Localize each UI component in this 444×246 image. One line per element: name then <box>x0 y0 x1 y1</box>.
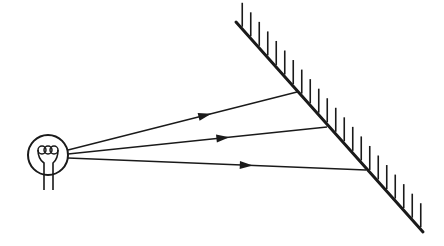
light-rays <box>68 92 366 170</box>
mirror-surface <box>236 22 423 232</box>
arrow-icon <box>216 133 230 142</box>
arrow-icon <box>198 110 213 121</box>
arrow-icon <box>240 161 253 170</box>
diagram-canvas <box>0 0 444 246</box>
light-ray <box>68 92 297 150</box>
light-ray <box>68 158 366 170</box>
plane-mirror <box>236 3 423 232</box>
light-bulb-icon <box>28 135 68 190</box>
